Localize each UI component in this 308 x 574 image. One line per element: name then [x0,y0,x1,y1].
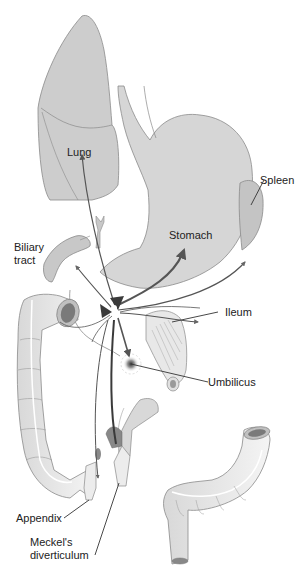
label-biliary-tract-2: tract [14,254,35,267]
label-stomach: Stomach [169,229,212,242]
spleen [239,180,264,250]
label-biliary-tract-1: Biliary [14,241,44,254]
label-spleen: Spleen [260,174,294,187]
anatomy-diagram [0,0,308,574]
label-lung: Lung [67,146,91,159]
distal-colon [164,425,271,564]
lung [38,15,119,200]
label-appendix: Appendix [16,512,62,525]
biliary-tract [43,216,104,282]
label-umbilicus: Umbilicus [208,376,256,389]
label-meckels-1: Meckel's [30,536,72,549]
ascending-colon [17,294,92,498]
label-meckels-2: diverticulum [30,549,89,562]
label-ileum: Ileum [225,306,252,319]
stomach [100,86,253,288]
meckels-diverticulum [95,399,158,556]
